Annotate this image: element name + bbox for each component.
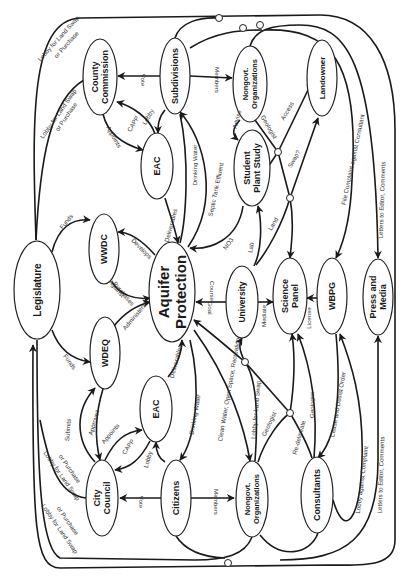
edge-label: Vote xyxy=(140,74,147,87)
node-label: WBPG xyxy=(327,282,337,310)
node-label: WWDC xyxy=(99,234,109,264)
node-student: StudentPlant Study xyxy=(234,130,270,206)
node-wdeq: WDEQ xyxy=(90,317,120,389)
edge-label: Letters to Editor, Comments xyxy=(377,161,387,238)
edge-label: Members xyxy=(213,489,220,515)
edge-label: Mediate xyxy=(260,304,267,327)
node-consultants: Consultants xyxy=(301,457,333,533)
edge-subdiv-eac-lobby xyxy=(158,110,165,133)
edge-citizens-eac-lobby xyxy=(156,442,165,462)
node-label: Citizens xyxy=(171,481,181,516)
node-science: SciencePanel xyxy=(273,258,307,334)
edge-label: Submits xyxy=(63,418,72,441)
junction-geologist-bot xyxy=(287,410,294,417)
edge-label: License xyxy=(305,307,312,329)
edge-label: Re-delineate xyxy=(291,419,307,455)
junction-geologist xyxy=(275,149,282,156)
node-label: AquiferProtection xyxy=(155,255,189,329)
edge-label: Letters to Editor, Comments xyxy=(376,436,386,513)
edge-label: Appoints xyxy=(105,125,123,149)
edge-label: Deliverables xyxy=(168,344,184,379)
edge-label: Geologist xyxy=(260,410,278,437)
edge-label: Drinking Water xyxy=(191,145,198,186)
edge-label: Goal xyxy=(207,301,214,314)
node-wbpg: WBPG xyxy=(317,258,347,334)
edge-label: Members xyxy=(214,67,221,93)
node-subdiv: Subdivisions xyxy=(160,38,190,114)
node-citizens: Citizens xyxy=(161,460,191,536)
node-eac-bot: EAC xyxy=(140,376,172,442)
edge-to-science xyxy=(290,198,292,258)
edge-label: Funds xyxy=(62,353,78,371)
stakeholder-diagram: AquiferProtectionLegislatureCountyCommis… xyxy=(0,0,407,577)
edge-label: Vote xyxy=(138,496,145,509)
node-label: Subdivisions xyxy=(170,48,180,104)
node-aquifer: AquiferProtection xyxy=(149,242,195,342)
node-label: University xyxy=(237,281,247,322)
junction-lobby-swap xyxy=(242,359,249,366)
edge-junction2-science xyxy=(290,334,294,413)
edge-drinking-water-top xyxy=(180,114,186,243)
edge-citizens-bottom xyxy=(176,536,225,558)
edge-subdiv-ngo xyxy=(190,30,262,48)
junction-top-2 xyxy=(240,25,247,32)
edge-label: Lab xyxy=(246,241,255,253)
edge-label: Administers xyxy=(121,302,147,331)
edge-label: NO3 xyxy=(221,236,234,251)
edge-label: Lobby against Complaint xyxy=(354,445,369,514)
junction-top-1 xyxy=(216,15,223,22)
edge-cross-1 xyxy=(278,152,290,198)
node-label: SciencePanel xyxy=(280,279,300,313)
node-label: EAC xyxy=(152,156,162,176)
edge-label: Develops xyxy=(130,237,153,260)
edge-label: Purchases xyxy=(112,280,136,307)
edge-label: Cease and Desist Order xyxy=(328,371,346,438)
junction-top-3 xyxy=(257,22,264,29)
edge-wdeq-city-approves xyxy=(97,389,103,460)
junction-bottom xyxy=(225,560,232,567)
node-press: Press andMedia xyxy=(363,259,393,335)
edge-label: Clean Water, Open Space, Recreation xyxy=(216,337,241,442)
node-eac-top: EAC xyxy=(141,133,173,199)
node-label: Legislature xyxy=(32,263,43,317)
node-county: CountyCommission xyxy=(83,39,117,115)
junction-land xyxy=(287,195,294,202)
edge-label: Course xyxy=(209,281,216,302)
node-label: WDEQ xyxy=(100,339,110,367)
edge-ngo-bot-consult xyxy=(260,533,318,552)
node-label: Consultants xyxy=(312,469,322,521)
edge-univ-student-lab xyxy=(254,206,261,266)
node-label: EAC xyxy=(151,399,161,419)
edge-lobby-top xyxy=(175,18,218,38)
edge-label: CAPP xyxy=(126,115,140,133)
edge-label: CAPP xyxy=(120,438,135,456)
node-university: University xyxy=(226,266,258,338)
edge-label: Lobby for Land Swap xyxy=(249,380,261,439)
edge-access xyxy=(278,90,308,152)
edge-label: Septic Tank Effluent xyxy=(206,162,224,217)
edge-label: Advise xyxy=(231,109,243,129)
edge-label: Geologist xyxy=(308,392,315,418)
node-label: Landowner xyxy=(318,57,327,100)
node-ngo-bot: Nongovt.Organizations xyxy=(236,461,268,537)
edge-label: Swap? xyxy=(286,148,302,168)
edge-subdiv-ngo-members xyxy=(190,76,232,78)
node-city: CityCouncil xyxy=(86,460,118,536)
node-legislature: Legislature xyxy=(14,241,60,339)
node-wwdc: WWDC xyxy=(89,214,119,284)
edge-label: Access xyxy=(279,100,295,121)
node-landowner: Landowner xyxy=(307,40,337,116)
edge-label: Approves xyxy=(87,409,101,436)
edge-label: Drinking Water xyxy=(188,394,202,435)
